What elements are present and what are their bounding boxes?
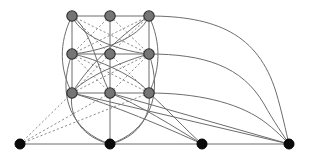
terminal-node-1[interactable] bbox=[15, 139, 25, 149]
terminal-node-4[interactable] bbox=[284, 139, 294, 149]
graph-diagram bbox=[0, 0, 311, 162]
grid-node-top-center[interactable] bbox=[105, 11, 115, 21]
dashed-edge-g02-g11 bbox=[110, 16, 149, 54]
grid-node-top-right[interactable] bbox=[144, 11, 154, 21]
curve-edge-g22-t3 bbox=[149, 93, 289, 144]
dashed-edge-t0-g22 bbox=[20, 93, 149, 144]
grid-node-middle-center[interactable] bbox=[105, 49, 115, 59]
curve-edge-g21-t2 bbox=[110, 93, 202, 144]
curve-edge-g22-t2 bbox=[149, 93, 202, 144]
curve-edge-g12-t3 bbox=[149, 54, 289, 144]
grid-node-bottom-right[interactable] bbox=[144, 88, 154, 98]
terminal-node-2[interactable] bbox=[105, 139, 115, 149]
grid-node-middle-left[interactable] bbox=[67, 49, 77, 59]
grid-node-top-left[interactable] bbox=[67, 11, 77, 21]
grid-node-middle-right[interactable] bbox=[144, 49, 154, 59]
edge-layer-dashed-terminal1 bbox=[20, 93, 149, 144]
grid-node-bottom-center[interactable] bbox=[105, 88, 115, 98]
graph-canvas bbox=[0, 0, 311, 162]
dashed-edge-t0-g20 bbox=[20, 93, 72, 144]
terminal-node-3[interactable] bbox=[197, 139, 207, 149]
chord-edge-g20-t3 bbox=[72, 93, 289, 144]
grid-node-bottom-left[interactable] bbox=[67, 88, 77, 98]
